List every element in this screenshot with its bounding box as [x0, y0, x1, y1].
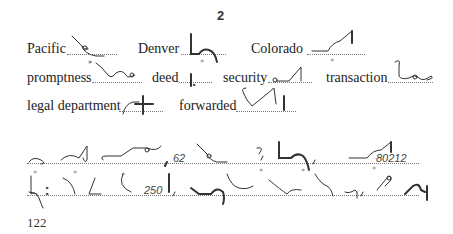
- shorthand-outline-security-icon: [271, 63, 313, 85]
- passage-number-250: 250: [144, 184, 162, 196]
- passage-number-80212: 80212: [376, 152, 407, 164]
- passage-number-62: 62: [173, 152, 185, 164]
- shorthand-outline-denver-icon: [185, 32, 225, 66]
- vocab-word-denver: Denver: [138, 41, 179, 57]
- shorthand-outline-legal-department-icon: [119, 92, 159, 118]
- vocab-word-transaction: transaction: [326, 70, 387, 86]
- shorthand-outline-forwarded-icon: [240, 84, 290, 114]
- shorthand-outline-transaction-icon: [393, 58, 438, 86]
- shorthand-passage-line-2-icon: [27, 172, 427, 212]
- vocab-word-colorado: Colorado: [251, 41, 303, 57]
- shorthand-outline-promptness-icon: [88, 59, 138, 84]
- shorthand-outline-deed-icon: [185, 72, 200, 90]
- vocab-word-pacific: Pacific: [27, 41, 66, 57]
- vocab-word-deed: deed: [152, 70, 178, 86]
- page-number: 122: [27, 215, 47, 231]
- vocab-word-forwarded: forwarded: [179, 98, 237, 114]
- section-number: 2: [217, 8, 224, 23]
- vocab-word-legal-department: legal department: [27, 98, 121, 114]
- vocab-word-promptness: promptness: [27, 70, 92, 86]
- shorthand-outline-colorado-icon: [310, 27, 360, 61]
